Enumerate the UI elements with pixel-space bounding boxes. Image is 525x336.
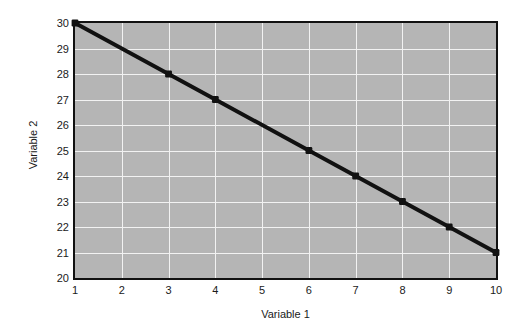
y-tick-label: 28	[29, 69, 69, 80]
plot-area	[73, 21, 498, 280]
y-tick-label: 20	[29, 273, 69, 284]
x-axis-title: Variable 1	[73, 308, 498, 320]
data-point-marker	[446, 224, 453, 231]
x-tick-label: 1	[55, 285, 95, 296]
x-tick-label: 2	[102, 285, 142, 296]
x-tick-label: 4	[195, 285, 235, 296]
x-tick-label: 5	[242, 285, 282, 296]
data-point-marker	[352, 173, 359, 180]
y-tick-label: 29	[29, 43, 69, 54]
x-tick-label: 10	[476, 285, 516, 296]
x-tick-label: 6	[289, 285, 329, 296]
x-tick-label: 9	[429, 285, 469, 296]
data-point-marker	[72, 20, 79, 27]
series-line	[75, 23, 496, 253]
data-point-marker	[305, 147, 312, 154]
x-tick-label: 7	[336, 285, 376, 296]
data-point-marker	[212, 96, 219, 103]
data-point-marker	[399, 198, 406, 205]
y-tick-label: 30	[29, 18, 69, 29]
x-tick-label: 3	[149, 285, 189, 296]
data-series-layer	[75, 23, 496, 278]
data-point-marker	[493, 249, 500, 256]
x-tick-label: 8	[382, 285, 422, 296]
y-tick-label: 22	[29, 222, 69, 233]
data-point-marker	[165, 71, 172, 78]
line-chart: 2021222324252627282930 12345678910 Varia…	[0, 0, 525, 336]
plot-inner	[75, 23, 496, 278]
y-tick-label: 21	[29, 247, 69, 258]
x-axis-tick-labels: 12345678910	[73, 285, 498, 299]
y-axis-title: Variable 2	[27, 85, 39, 205]
